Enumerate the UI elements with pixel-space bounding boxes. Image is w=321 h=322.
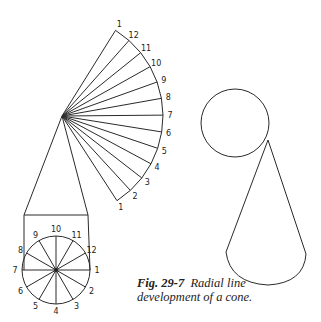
top-view-label: 3 (74, 302, 79, 311)
fan-element-line (62, 115, 163, 116)
top-view-center (54, 268, 58, 272)
caption-line-2: development of a cone. (137, 290, 252, 304)
cone-development-diagram: 1121110987654321 123456789101112 (0, 0, 321, 322)
arc-label: 3 (145, 178, 150, 187)
top-view-label: 10 (51, 225, 61, 234)
figure-caption: Fig. 29-7 Radial line development of a c… (137, 276, 317, 304)
top-view-label: 12 (86, 246, 96, 255)
arc-label: 7 (167, 111, 172, 120)
arc-label: 12 (129, 31, 139, 40)
arc-label: 5 (162, 147, 167, 156)
arc-label: 2 (133, 192, 138, 201)
arc-label: 10 (151, 59, 161, 68)
arc-label: 8 (166, 93, 171, 102)
top-view-label: 7 (12, 266, 17, 275)
front-view-triangle (24, 116, 88, 215)
top-view-label: 9 (33, 231, 38, 240)
top-view-label: 5 (33, 302, 38, 311)
arc-label: 9 (161, 76, 166, 85)
fan-element-line (62, 30, 116, 116)
fan-element-line (62, 82, 157, 116)
top-view-label: 1 (94, 266, 99, 275)
arc-label: 1 (118, 203, 123, 212)
top-view-label: 8 (18, 246, 23, 255)
arc-label: 11 (141, 44, 151, 53)
figure-number: Fig. 29-7 (137, 276, 184, 290)
pictorial-cone (226, 140, 306, 285)
arc-label: 6 (166, 129, 171, 138)
arc-label: 4 (155, 163, 160, 172)
top-view-label: 6 (18, 287, 23, 296)
caption-line-1: Radial line (190, 276, 245, 290)
fan-element-line (62, 53, 141, 116)
arc-label: 1 (117, 20, 122, 29)
top-view-label: 2 (89, 287, 94, 296)
fan-element-line (62, 40, 129, 116)
development-arc-labels: 1121110987654321 (117, 20, 173, 211)
fan-element-line (62, 116, 117, 201)
top-view-label: 4 (53, 307, 58, 316)
base-circle (201, 89, 269, 157)
top-view-label: 11 (71, 231, 81, 240)
fan-element-line (62, 116, 142, 178)
